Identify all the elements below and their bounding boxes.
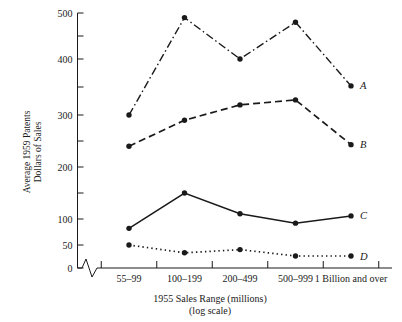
patents-vs-sales-chart: 050100200300400500 Average 1959 Patents …: [0, 0, 402, 322]
data-point-B: [182, 118, 187, 123]
y-tick-label: 50: [63, 240, 73, 251]
data-point-D: [348, 253, 353, 258]
y-axis-title-line1: Average 1959 Patents: [22, 110, 32, 193]
data-point-C: [237, 211, 242, 216]
series-label-B: B: [360, 139, 367, 150]
data-point-A: [182, 15, 187, 20]
series-label-C: C: [360, 210, 368, 221]
y-tick-label: 0: [68, 263, 73, 274]
data-point-A: [293, 20, 298, 25]
data-point-D: [126, 242, 131, 247]
data-point-B: [237, 102, 242, 107]
series-C: [126, 190, 353, 231]
x-axis-title-main: 1955 Sales Range (millions): [153, 293, 267, 305]
series-label-D: D: [359, 251, 368, 262]
chart-canvas: 050100200300400500 Average 1959 Patents …: [0, 0, 402, 322]
x-category-label: 55–99: [117, 273, 142, 284]
x-axis-title: 1955 Sales Range (millions) (log scale): [153, 293, 267, 317]
y-tick-label: 400: [58, 54, 73, 65]
data-point-C: [182, 190, 187, 195]
series-line-A: [129, 18, 351, 115]
y-axis-tick-labels: 050100200300400500: [58, 8, 73, 274]
data-point-A: [237, 56, 242, 61]
data-point-D: [293, 253, 298, 258]
x-axis-title-sub: (log scale): [189, 305, 231, 317]
series-D: [126, 242, 353, 258]
x-category-label: 1 Billion and over: [315, 273, 388, 284]
series-tag-layer: ABCD: [359, 80, 368, 261]
y-tick-label: 200: [58, 162, 73, 173]
data-point-B: [348, 142, 353, 147]
series-B: [126, 97, 353, 149]
data-point-C: [348, 213, 353, 218]
data-point-B: [293, 97, 298, 102]
y-axis: 050100200300400500: [58, 8, 84, 274]
data-point-C: [126, 226, 131, 231]
x-axis: 55–99100–199200–499500–9991 Billion and …: [78, 259, 393, 284]
x-category-label: 500–999: [278, 273, 313, 284]
y-axis-title-line2: Dollars of Sales: [33, 121, 43, 182]
series-label-A: A: [359, 80, 367, 91]
y-axis-ticks: [78, 13, 84, 268]
x-category-label: 100–199: [167, 273, 202, 284]
data-point-C: [293, 220, 298, 225]
x-axis-category-labels: 55–99100–199200–499500–9991 Billion and …: [117, 273, 388, 284]
data-point-D: [237, 247, 242, 252]
series-line-C: [129, 193, 351, 228]
x-axis-ticks: [101, 261, 379, 268]
series-layer: [126, 15, 353, 259]
data-point-A: [126, 112, 131, 117]
y-tick-label: 300: [58, 110, 73, 121]
y-axis-title: Average 1959 Patents Dollars of Sales: [22, 110, 43, 193]
data-point-D: [182, 250, 187, 255]
y-tick-label: 500: [58, 8, 73, 19]
x-category-label: 200–499: [223, 273, 258, 284]
y-tick-label: 100: [58, 214, 73, 225]
data-point-A: [348, 83, 353, 88]
data-point-B: [126, 144, 131, 149]
